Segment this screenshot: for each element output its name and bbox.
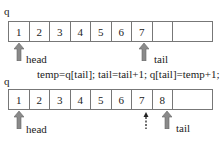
queue-cell: 3 xyxy=(50,90,71,109)
queue-cell xyxy=(153,22,174,41)
queue-cell: 2 xyxy=(30,90,51,109)
tail-arrow-icon xyxy=(162,111,172,129)
array-label-q-top: q xyxy=(4,6,10,17)
array-label-q-bottom: q xyxy=(4,76,10,87)
queue-cell: 2 xyxy=(30,22,51,41)
queue-cell: 5 xyxy=(91,22,112,41)
head-arrow-icon xyxy=(14,111,24,129)
queue-cell: 8 xyxy=(153,90,174,109)
operation-code: temp=q[tail]; tail=tail+1; q[tail]=temp+… xyxy=(37,69,220,80)
tail-label-top: tail xyxy=(154,54,168,65)
tail-label-bottom: tail xyxy=(176,123,190,134)
queue-cell xyxy=(173,90,212,109)
head-label-bottom: head xyxy=(26,124,47,135)
queue-cell: 5 xyxy=(91,90,112,109)
queue-cell: 4 xyxy=(71,22,92,41)
queue-cell: 1 xyxy=(9,90,30,109)
queue-cell: 4 xyxy=(71,90,92,109)
queue-array-bottom: 1 2 3 4 5 6 7 8 xyxy=(8,89,213,110)
head-arrow-icon xyxy=(14,43,24,61)
queue-cell: 7 xyxy=(132,22,153,41)
head-label-top: head xyxy=(26,54,47,65)
queue-cell: 7 xyxy=(132,90,153,109)
queue-array-top: 1 2 3 4 5 6 7 xyxy=(8,21,213,42)
queue-cell: 1 xyxy=(9,22,30,41)
queue-cell: 6 xyxy=(112,90,133,109)
queue-cell xyxy=(173,22,212,41)
queue-cell: 6 xyxy=(112,22,133,41)
queue-cell: 3 xyxy=(50,22,71,41)
tail-arrow-icon xyxy=(139,43,149,61)
old-tail-dashed-arrow-icon xyxy=(142,112,150,129)
